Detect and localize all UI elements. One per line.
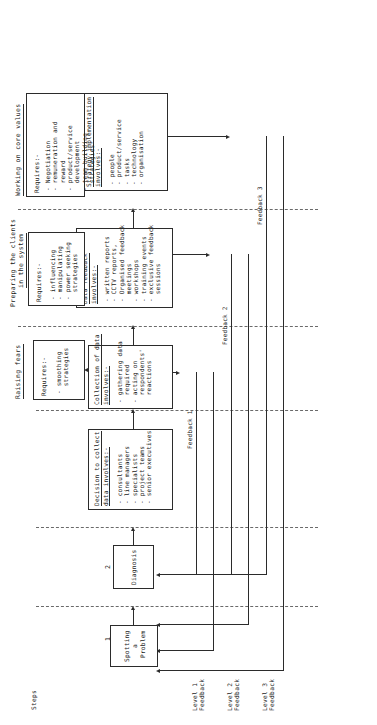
box-decision-bullet-2: - specialists (131, 454, 138, 504)
box-layer: Spotting a Problem Diagnosis Decision to… (0, 0, 377, 725)
box-req1-bullet-0: - smoothing (55, 351, 62, 394)
box-collection-title: Collection of data (93, 334, 102, 405)
box-data-feedback-bullet-0: - written reports (103, 236, 110, 302)
box-decision-bullet-4: - senior executives (145, 430, 152, 504)
box-collection-title2: involves:- (102, 366, 111, 405)
box-req3-bullet-1: - remuneration and (51, 121, 58, 191)
box-collection-bullet-0: - gathering data (116, 341, 123, 403)
box-req2-bullet-2: - power seeking (64, 242, 71, 300)
box-collection-bullet-4: reactions (145, 360, 152, 403)
box-decision-title: Decision to collect (93, 431, 102, 506)
box-diagnosis-title: Diagnosis (130, 550, 137, 585)
box-strategy-bullet-1: - product/service (115, 119, 122, 185)
box-data-feedback-bullet-4: - workshops (132, 259, 139, 302)
box-req3-bullet-6: strategies (88, 145, 95, 191)
box-decision-title2: data involves:- (102, 447, 111, 506)
box-data-feedback-title2: involves:- (90, 265, 99, 304)
box-req3-bullet-5: - team building (81, 133, 88, 191)
box-data-feedback-bullet-5: - training events (140, 236, 147, 302)
box-req2-bullet-3: strategies (71, 254, 78, 300)
box-decision-bullet-0: - consultants (116, 454, 123, 504)
box-spotting-title2: a (131, 644, 138, 648)
box-data-feedback-bullet-6: - exclusive feedback (147, 225, 154, 302)
box-req2-bullet-1: - manipulating (56, 246, 63, 300)
box-collection-bullet-1: required (123, 364, 130, 403)
box-data-feedback-bullet-7: sessions (154, 263, 161, 302)
box-strategy-bullet-2: - tasks (123, 158, 130, 185)
box-req3-bullet-3: - product/service (66, 125, 73, 191)
box-collection-bullet-3: respondents' (138, 349, 145, 403)
box-strategy-bullet-3: - technology (130, 139, 137, 185)
box-req3-title: Requires:- (33, 154, 40, 193)
box-req2-bullet-0: - influencing (49, 250, 56, 300)
box-req3-bullet-2: reward (59, 160, 66, 191)
box-data-feedback-bullet-1: - CCTV reports, (110, 244, 117, 302)
box-req3-bullet-0: - Negotiation (44, 141, 51, 191)
box-strategy-bullet-0: - people (108, 154, 115, 185)
box-req1-bullet-1: strategies (62, 348, 69, 394)
box-req3-bullet-4: development (73, 141, 80, 191)
box-decision-bullet-3: - project teams (138, 446, 145, 504)
box-spotting-title: Spotting (123, 631, 130, 662)
box-req2-title: Requires:- (35, 263, 42, 302)
box-strategy-bullet-4: - organisation (137, 131, 144, 185)
box-req1-title: Requires:- (40, 357, 47, 396)
box-data-feedback-bullet-2: - Organised feedback (118, 225, 125, 302)
box-spotting-title3: Problem (139, 631, 146, 658)
diagram-canvas: Steps Level 1 Feedback Level 2 Feedback … (0, 0, 377, 725)
box-collection-bullet-2: - acting on (131, 360, 138, 403)
box-decision-bullet-1: - line managers (123, 446, 130, 504)
box-data-feedback-bullet-3: meetings (125, 263, 132, 302)
